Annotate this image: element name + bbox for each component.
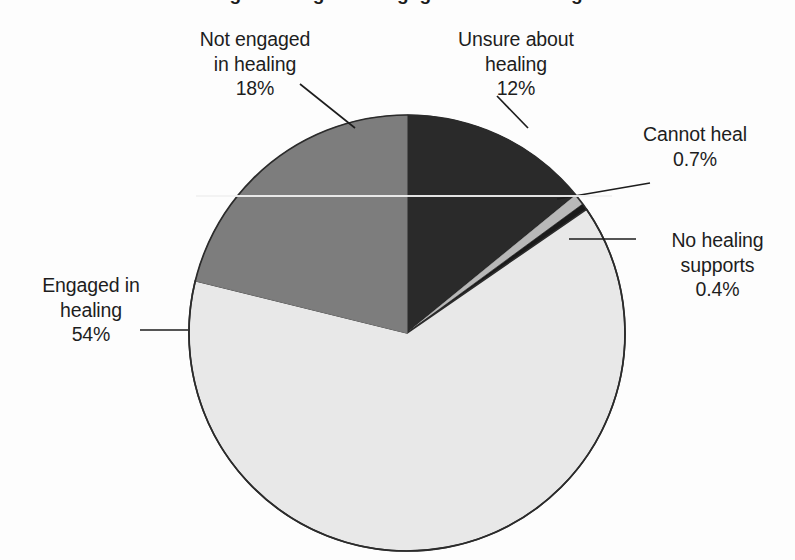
slice-label-no-healing-supports: No healing supports 0.4%	[640, 228, 795, 302]
chart-page: Figure: Stages of engagement in healing …	[0, 0, 795, 560]
slice-label-engaged-in-healing: Engaged in healing 54%	[2, 273, 180, 347]
slice-label-line1: No healing	[640, 228, 795, 253]
leader-line-unsure	[497, 96, 528, 128]
slice-label-line1: Engaged in	[2, 273, 180, 298]
slice-label-percent: 12%	[418, 76, 614, 101]
slice-label-cannot-heal: Cannot heal 0.7%	[600, 122, 790, 171]
scan-artifact-line	[196, 195, 612, 197]
slice-label-percent: 18%	[148, 76, 362, 101]
slice-label-line2: healing	[418, 52, 614, 77]
slice-label-line1: Unsure about	[418, 27, 614, 52]
slice-label-percent: 0.7%	[600, 147, 790, 172]
slice-label-line2: supports	[640, 253, 795, 278]
slice-label-percent: 0.4%	[640, 277, 795, 302]
slice-label-line2: healing	[2, 298, 180, 323]
slice-label-percent: 54%	[2, 322, 180, 347]
slice-label-not-engaged-in-healing: Not engaged in healing 18%	[148, 27, 362, 101]
slice-label-unsure-about-healing: Unsure about healing 12%	[418, 27, 614, 101]
slice-label-line1: Not engaged	[148, 27, 362, 52]
slice-label-line1: Cannot heal	[600, 122, 790, 147]
slice-label-line2: in healing	[148, 52, 362, 77]
